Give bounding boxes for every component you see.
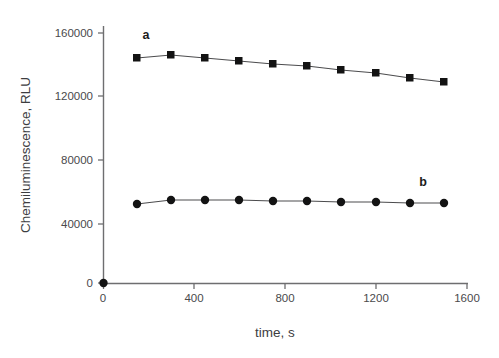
y-ticklabel-160000: 160000	[55, 27, 93, 39]
series-b-point	[235, 196, 243, 204]
y-ticklabel-80000: 80000	[61, 154, 93, 166]
y-ticklabel-0: 0	[87, 277, 93, 289]
series-a-point	[406, 74, 414, 82]
series-b-point	[406, 199, 414, 207]
x-ticklabel-400: 400	[184, 292, 203, 304]
origin-point	[99, 279, 107, 287]
y-ticklabels-group: 160000 120000 80000 40000 0	[55, 27, 93, 289]
x-axis-title: time, s	[255, 325, 295, 340]
series-b-point	[372, 198, 380, 206]
chart-figure: 160000 120000 80000 40000 0 0 400 800 12…	[0, 0, 499, 358]
x-ticklabels-group: 0 400 800 1200 1600	[100, 292, 480, 304]
series-a-point	[201, 54, 209, 62]
series-b-group	[133, 196, 448, 208]
series-a-point	[269, 60, 277, 68]
series-a-point	[235, 57, 243, 65]
series-b-point	[337, 198, 345, 206]
series-b-point	[133, 200, 141, 208]
series-a-point	[167, 51, 175, 59]
y-ticklabel-120000: 120000	[55, 90, 93, 102]
series-a-point	[337, 66, 345, 74]
y-ticklabel-40000: 40000	[61, 218, 93, 230]
series-b-point	[167, 196, 175, 204]
series-b-point	[440, 199, 448, 207]
series-b-point	[269, 197, 277, 205]
x-ticklabel-800: 800	[275, 292, 294, 304]
series-a-point	[303, 62, 311, 70]
x-ticklabel-1200: 1200	[363, 292, 389, 304]
series-a-label: a	[143, 28, 151, 42]
series-a-line	[137, 55, 444, 82]
y-axis-title: Chemiluminescence, RLU	[18, 77, 33, 233]
series-a-point	[440, 78, 448, 86]
series-b-line	[137, 200, 444, 204]
series-b-label: b	[419, 175, 427, 189]
series-b-point	[303, 197, 311, 205]
x-ticklabel-1600: 1600	[454, 292, 480, 304]
series-b-point	[201, 196, 209, 204]
chemiluminescence-decay-plot: 160000 120000 80000 40000 0 0 400 800 12…	[0, 0, 499, 358]
series-a-point	[133, 54, 141, 62]
series-a-point	[372, 69, 380, 77]
series-a-group	[133, 51, 448, 86]
x-ticklabel-0: 0	[100, 292, 106, 304]
